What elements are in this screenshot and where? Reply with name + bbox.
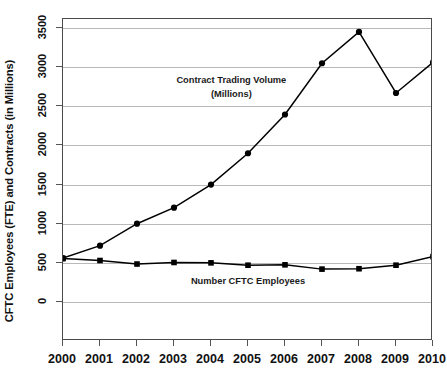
data-point xyxy=(208,260,214,266)
data-point xyxy=(430,254,432,260)
data-point xyxy=(134,221,140,227)
data-point xyxy=(245,150,251,156)
data-point xyxy=(208,181,214,187)
y-tick-label: 1500 xyxy=(35,167,49,201)
data-point xyxy=(282,111,288,117)
y-axis-title: CFTC Employees (FTE) and Contracts (in M… xyxy=(2,0,16,382)
data-point xyxy=(97,243,103,249)
y-tick-label: 3500 xyxy=(35,10,49,44)
x-tick-mark xyxy=(321,340,322,346)
volume-annotation-line2: (Millions) xyxy=(151,89,311,99)
volume-annotation-line1: Contract Trading Volume xyxy=(151,75,311,85)
data-point xyxy=(282,262,288,268)
x-tick-mark xyxy=(62,340,63,346)
y-tick-label: 0 xyxy=(35,284,49,318)
x-tick-mark xyxy=(136,340,137,346)
data-series-layer xyxy=(63,19,432,340)
series-line-volume xyxy=(63,32,432,258)
y-tick-label: 500 xyxy=(35,245,49,279)
data-point xyxy=(319,266,325,272)
x-tick-mark xyxy=(99,340,100,346)
plot-area: Contract Trading Volume (Millions) Numbe… xyxy=(62,18,432,340)
employees-annotation: Number CFTC Employees xyxy=(168,276,328,286)
data-point xyxy=(62,256,66,262)
data-point xyxy=(393,90,399,96)
employees-annotation-line1: Number CFTC Employees xyxy=(168,276,328,286)
chart-figure: CFTC Employees (FTE) and Contracts (in M… xyxy=(0,0,447,382)
y-tick-label: 1000 xyxy=(35,206,49,240)
x-tick-mark xyxy=(247,340,248,346)
x-tick-mark xyxy=(432,340,433,346)
y-tick-label: 2000 xyxy=(35,127,49,161)
x-tick-mark xyxy=(284,340,285,346)
data-point xyxy=(97,258,103,264)
data-point xyxy=(393,262,399,268)
x-tick-mark xyxy=(395,340,396,346)
y-tick-label: 2500 xyxy=(35,88,49,122)
volume-annotation: Contract Trading Volume (Millions) xyxy=(151,75,311,99)
y-tick-label: 3000 xyxy=(35,49,49,83)
data-point xyxy=(171,260,177,266)
data-point xyxy=(356,266,362,272)
data-point xyxy=(171,205,177,211)
x-tick-mark xyxy=(210,340,211,346)
data-point xyxy=(356,29,362,35)
x-tick-mark xyxy=(358,340,359,346)
x-tick-label: 2010 xyxy=(409,352,447,366)
data-point xyxy=(319,60,325,66)
x-tick-mark xyxy=(173,340,174,346)
data-point xyxy=(134,261,140,267)
data-point xyxy=(245,262,251,268)
